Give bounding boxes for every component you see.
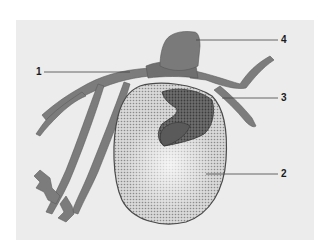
anatomical-rendering	[0, 0, 325, 247]
callout-2: 2	[281, 169, 287, 179]
structure-4	[160, 31, 200, 70]
callout-1: 1	[36, 67, 42, 77]
callout-3: 3	[281, 93, 287, 103]
callout-4: 4	[281, 35, 287, 45]
